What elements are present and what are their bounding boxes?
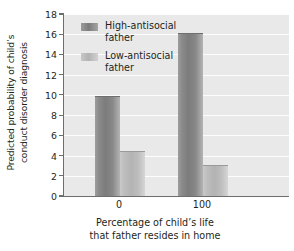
plot-area: High-antisocial father Low-antisocial fa… <box>63 14 289 197</box>
bar-low-antisocial-100 <box>203 165 228 196</box>
y-axis-tick-labels: 024681012141618 <box>34 14 60 196</box>
y-axis-tick-label: 18 <box>45 9 57 20</box>
legend-label-low-line-2: father <box>105 62 173 74</box>
x-axis-title: Percentage of child’s life that father r… <box>40 216 270 242</box>
legend-label-low-line-1: Low-antisocial <box>105 50 173 62</box>
y-axis-tick-label: 16 <box>45 29 57 40</box>
legend-label-low: Low-antisocial father <box>105 50 173 73</box>
legend-label-high-line-1: High-antisocial <box>105 20 176 32</box>
x-axis-tick-labels: 0100 <box>63 199 288 213</box>
legend-item-low-antisocial: Low-antisocial father <box>81 50 176 73</box>
legend-swatch-icon-low <box>81 53 98 61</box>
bar-high-antisocial-100 <box>178 33 203 196</box>
y-axis-tick-label: 0 <box>51 191 57 202</box>
y-axis-title: Predicted probability of child’s conduct… <box>0 0 34 205</box>
y-axis-tick-label: 12 <box>45 69 57 80</box>
x-axis-title-line-2: that father resides in home <box>40 229 270 242</box>
bar-chart-figure: Predicted probability of child’s conduct… <box>0 0 294 251</box>
y-axis-title-text: Predicted probability of child’s conduct… <box>5 34 30 170</box>
bar-low-antisocial-0 <box>120 151 145 196</box>
legend-swatch-icon-high <box>81 23 98 31</box>
x-axis-tick-label: 100 <box>193 199 211 210</box>
y-axis-tick-label: 6 <box>51 130 57 141</box>
y-axis-tick-label: 8 <box>51 110 57 121</box>
legend-label-high-line-2: father <box>105 32 176 44</box>
y-axis-tick-label: 14 <box>45 49 57 60</box>
legend-label-high: High-antisocial father <box>105 20 176 43</box>
y-axis-title-line-1: Predicted probability of child’s <box>5 34 18 170</box>
legend-item-high-antisocial: High-antisocial father <box>81 20 176 43</box>
x-axis-tick-label: 0 <box>116 199 122 210</box>
legend: High-antisocial father Low-antisocial fa… <box>81 20 176 80</box>
bar-high-antisocial-0 <box>95 96 120 196</box>
y-axis-tick-label: 10 <box>45 89 57 100</box>
x-axis-title-line-1: Percentage of child’s life <box>40 216 270 229</box>
y-axis-tick-label: 2 <box>51 170 57 181</box>
y-axis-tick-label: 4 <box>51 150 57 161</box>
y-axis-title-line-2: conduct disorder diagnosis <box>17 34 30 170</box>
